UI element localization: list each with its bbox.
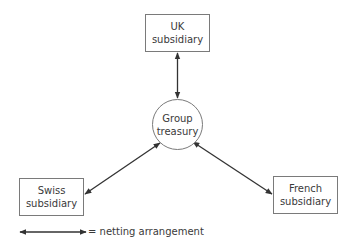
treasury-node-label-line1: Group bbox=[162, 112, 192, 125]
swiss-treasury-arrow bbox=[85, 143, 160, 194]
swiss-node-label-line1: Swiss bbox=[38, 184, 66, 197]
group-treasury-node: Group treasury bbox=[152, 99, 203, 150]
legend-label: = netting arrangement bbox=[88, 225, 204, 238]
french-node-label-line2: subsidiary bbox=[280, 195, 331, 208]
french-subsidiary-node: French subsidiary bbox=[273, 176, 338, 214]
uk-subsidiary-node: UK subsidiary bbox=[145, 14, 210, 52]
treasury-node-label-line2: treasury bbox=[157, 125, 199, 138]
swiss-subsidiary-node: Swiss subsidiary bbox=[19, 178, 84, 216]
uk-node-label-line2: subsidiary bbox=[152, 33, 203, 46]
swiss-node-label-line2: subsidiary bbox=[26, 197, 77, 210]
french-treasury-arrow bbox=[193, 142, 272, 194]
french-node-label-line1: French bbox=[289, 182, 322, 195]
uk-node-label-line1: UK bbox=[171, 20, 185, 33]
netting-diagram: UK subsidiary Group treasury Swiss subsi… bbox=[0, 0, 351, 244]
